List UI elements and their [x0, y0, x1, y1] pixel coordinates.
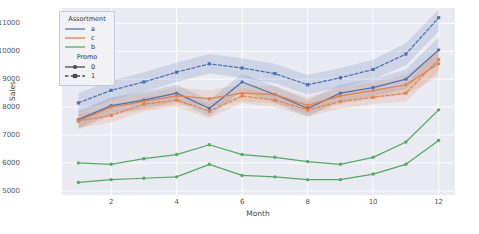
x-tick-label: 2	[109, 198, 113, 206]
y-tick-label: 8000	[0, 103, 20, 111]
legend-item-assortment-c[interactable]: c	[64, 34, 110, 42]
y-tick-label: 5000	[0, 187, 20, 195]
y-axis-label: Sales	[8, 81, 17, 101]
legend-title-assortment: Assortment	[64, 15, 110, 23]
legend-line-icon-b	[64, 43, 86, 51]
x-tick-label: 8	[305, 198, 309, 206]
x-tick-label: 4	[174, 198, 178, 206]
legend-label-promo-1: 1	[91, 72, 95, 80]
y-tick-label: 10000	[0, 47, 20, 55]
x-tick-label: 12	[434, 198, 443, 206]
legend-solid-circle-icon	[64, 63, 86, 71]
y-tick-label: 11000	[0, 19, 20, 27]
legend[interactable]: Assortment a c b Promo	[59, 11, 115, 86]
legend-item-assortment-b[interactable]: b	[64, 43, 110, 51]
legend-label-promo-0: 0	[91, 63, 95, 71]
x-tick-label: 6	[240, 198, 244, 206]
legend-item-promo-0[interactable]: 0	[64, 63, 110, 71]
legend-item-assortment-a[interactable]: a	[64, 25, 110, 33]
legend-item-promo-1[interactable]: 1	[64, 72, 110, 80]
x-tick-label: 10	[369, 198, 378, 206]
chart-figure: 500060007000800090001000011000 24681012 …	[0, 0, 479, 234]
y-tick-label: 6000	[0, 159, 20, 167]
x-axis-label: Month	[246, 209, 270, 218]
legend-dashed-square-icon	[64, 72, 86, 80]
legend-line-icon-c	[64, 34, 86, 42]
legend-title-promo: Promo	[64, 53, 110, 61]
legend-label-a: a	[91, 25, 95, 33]
legend-line-icon-a	[64, 25, 86, 33]
legend-label-c: c	[91, 34, 95, 42]
y-tick-label: 7000	[0, 131, 20, 139]
legend-label-b: b	[91, 43, 95, 51]
